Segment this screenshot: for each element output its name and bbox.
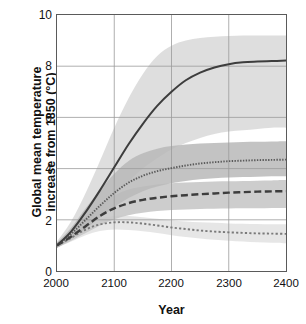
plot-area [56, 14, 287, 272]
y-tick-2: 2 [26, 214, 52, 228]
chart-svg [57, 15, 286, 271]
y-tick-labels: 10 8 6 4 2 0 [22, 0, 52, 324]
y-tick-6: 6 [26, 111, 52, 125]
y-tick-10: 10 [26, 8, 52, 22]
figure-container: Global mean temperature increase from 18… [0, 0, 306, 324]
y-tick-4: 4 [26, 162, 52, 176]
x-tick-2400: 2400 [264, 277, 306, 289]
x-tick-2100: 2100 [92, 277, 136, 289]
y-tick-8: 8 [26, 59, 52, 73]
x-axis-label: Year [56, 303, 287, 317]
x-tick-2000: 2000 [34, 277, 78, 289]
x-tick-2200: 2200 [149, 277, 193, 289]
x-tick-2300: 2300 [207, 277, 251, 289]
